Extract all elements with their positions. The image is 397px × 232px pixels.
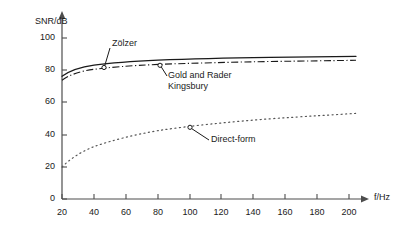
annotation-leader-zoelzer: [102, 48, 110, 70]
x-tick-label-160: 160: [270, 207, 300, 218]
x-tick-label-20: 20: [47, 207, 77, 218]
series-annotation-zoelzer: Zölzer: [112, 38, 137, 49]
x-tick-label-200: 200: [334, 207, 364, 218]
series-line-direct-form: [62, 113, 356, 167]
annotation-leader-gold-rader-kingsbury: [158, 63, 167, 76]
series-annotation-direct-form: Direct-form: [211, 134, 256, 145]
annotation-leader-direct-form: [188, 125, 209, 140]
series-annotation-gold-rader: Gold and Rader: [168, 70, 232, 81]
x-tick-label-80: 80: [143, 207, 173, 218]
x-tick-label-100: 100: [175, 207, 205, 218]
chart-figure: SNR/dB f/Hz 100 80 60 40 20 0 20 40 60 8…: [0, 0, 397, 232]
y-axis-title: SNR/dB: [35, 16, 68, 27]
series-annotation-kingsbury: Kingsbury: [168, 81, 208, 92]
y-axis-ticks: [62, 38, 67, 199]
y-tick-label-60: 60: [25, 96, 55, 107]
x-axis: [62, 196, 369, 203]
x-axis-ticks: [62, 194, 349, 199]
x-tick-label-120: 120: [206, 207, 236, 218]
x-tick-label-40: 40: [79, 207, 109, 218]
y-tick-label-0: 0: [25, 193, 55, 204]
y-tick-label-20: 20: [25, 161, 55, 172]
x-axis-title: f/Hz: [374, 192, 390, 203]
plot-canvas: [0, 0, 397, 232]
x-tick-label-60: 60: [111, 207, 141, 218]
x-tick-label-140: 140: [238, 207, 268, 218]
x-tick-label-180: 180: [302, 207, 332, 218]
y-tick-label-80: 80: [25, 64, 55, 75]
y-axis: [59, 11, 66, 199]
y-tick-label-100: 100: [25, 32, 55, 43]
y-tick-label-40: 40: [25, 129, 55, 140]
